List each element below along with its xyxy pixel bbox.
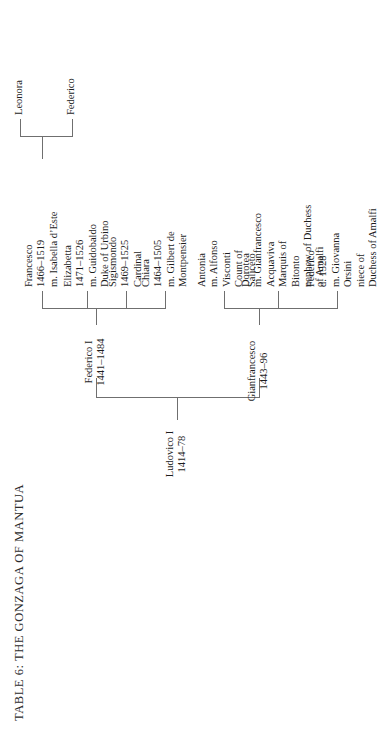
edge-to-chiara: [165, 291, 166, 309]
node-chiara: Chiara 1464–1505 m. Gilbert de Montpensi…: [140, 177, 190, 287]
edge-federico-i-bus: [42, 308, 165, 309]
edge-ludovico-stem: [177, 398, 178, 420]
edge-francesco-bus: [20, 136, 72, 137]
node-francesco: Francesco 1466–1519 m. Isabella d’Este: [23, 161, 60, 287]
node-federico-i: Federico I 1441–1484: [83, 327, 108, 397]
edge-federico-i-stem: [96, 309, 97, 325]
edge-to-federico-d1528: [337, 291, 338, 309]
edge-to-antonia: [224, 291, 225, 309]
edge-to-federico-son: [72, 119, 73, 137]
edge-francesco-stem: [42, 137, 43, 159]
edge-to-francesco: [42, 291, 43, 309]
node-sigismondo: Sigismondo 1469–1525 Cardinal: [107, 187, 144, 287]
node-antonia: Antonia m. Alfonso Visconti Count of Sal…: [196, 187, 258, 287]
edge-ludovico-bus: [96, 397, 259, 398]
node-elizabetta: Elizabetta 1471–1526 m. Guidobaldo Duke …: [62, 175, 112, 287]
node-ludovico: Ludovico I 1414–78: [164, 421, 189, 487]
edge-gianfrancesco-bus: [224, 308, 337, 309]
edge-to-sigismondo: [126, 291, 127, 309]
edge-to-leonora: [20, 119, 21, 137]
edge-gianfrancesco-stem: [259, 309, 260, 325]
node-gianfrancesco: Gianfrancesco 1443–96: [246, 327, 271, 415]
edge-to-dorotea: [278, 291, 279, 309]
edge-to-elizabetta: [87, 291, 88, 309]
node-leonora: Leonora: [13, 49, 25, 115]
node-federico-son: Federico: [65, 49, 77, 115]
page-title: TABLE 6: THE GONZAGA OF MANTUA: [12, 484, 27, 721]
